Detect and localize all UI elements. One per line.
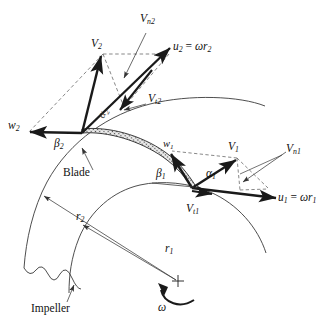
- label-Vn1: Vn1: [286, 143, 301, 156]
- label-V1: V1: [228, 141, 239, 154]
- V2-vector: [82, 56, 101, 133]
- impeller-break-line: [24, 267, 81, 289]
- Vn1-leader: [243, 152, 286, 182]
- label-u2: u2 = ωr2: [173, 41, 211, 54]
- label-r2: r2: [76, 211, 84, 224]
- impeller-blade: [82, 128, 195, 188]
- Vn2-leader: [124, 33, 146, 78]
- label-Vt2: Vt2: [148, 93, 161, 106]
- label-w2: w2: [8, 120, 20, 133]
- w2-vector: [30, 132, 82, 133]
- label-Vt1: Vt1: [186, 203, 199, 216]
- impeller-leader-line: [67, 285, 74, 302]
- outer-radius-arc: [24, 97, 265, 268]
- label-omega: ω: [158, 302, 166, 314]
- Vt2-leader: [124, 104, 146, 110]
- label-Vn2: Vn2: [140, 13, 155, 26]
- label-r1: r1: [165, 243, 173, 256]
- label-beta2: β2: [54, 138, 64, 151]
- label-impeller: Impeller: [31, 303, 70, 315]
- Vn1-leader-2: [240, 155, 282, 174]
- rotation-center-mark: [172, 275, 184, 287]
- label-blade: Blade: [63, 167, 90, 179]
- label-V2: V2: [91, 38, 102, 51]
- diagram-canvas: [0, 0, 321, 322]
- label-w1: w1: [163, 139, 174, 151]
- label-beta1: β1: [156, 168, 166, 181]
- r1-dimension-line: [83, 225, 176, 280]
- inner-radius-arc: [69, 183, 266, 293]
- r2-dimension-line: [44, 196, 176, 280]
- u2-vector: [82, 48, 170, 133]
- label-alpha1: α1: [206, 168, 216, 181]
- impeller-velocity-diagram: Vn2 V2 u2 = ωr2 Vt2 α2 w2 β2 Blade w1 β1…: [0, 0, 321, 322]
- label-u1: u1 = ωr1: [278, 192, 316, 205]
